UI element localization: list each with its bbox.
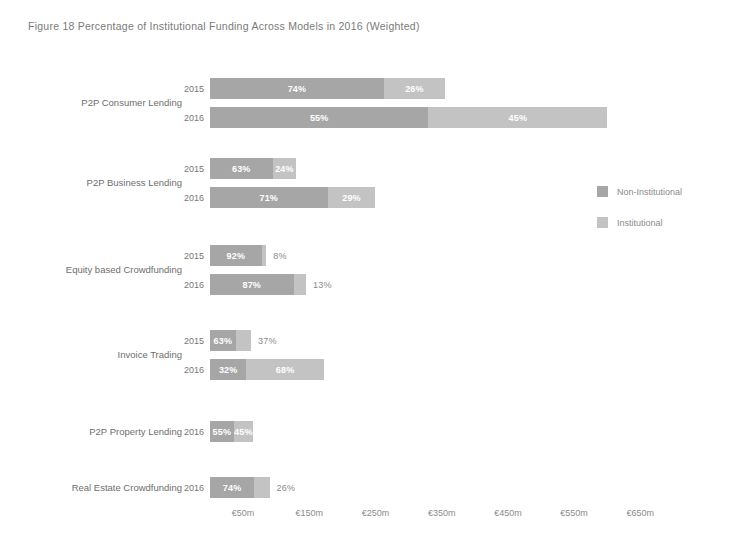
bar-segment-institutional[interactable]: 8% xyxy=(262,245,267,266)
bar-group: Invoice Trading201563%37%201632%68% xyxy=(0,330,733,380)
bar-value-label: 74% xyxy=(288,84,307,94)
bar-value-label: 45% xyxy=(234,427,253,437)
bar-segment-non-institutional[interactable]: 74% xyxy=(210,78,384,99)
bar-value-label: 26% xyxy=(405,84,424,94)
category-label: Equity based Crowdfunding xyxy=(0,264,182,275)
bar-value-label: 55% xyxy=(213,427,232,437)
bar-segment-institutional[interactable]: 29% xyxy=(328,187,376,208)
legend-item[interactable]: Non-Institutional xyxy=(597,186,727,197)
stacked-bar[interactable]: 74%26% xyxy=(210,477,270,498)
bar-segment-institutional[interactable]: 26% xyxy=(384,78,445,99)
bar-value-label: 68% xyxy=(276,365,295,375)
bar-segment-non-institutional[interactable]: 71% xyxy=(210,187,328,208)
bar-value-label: 74% xyxy=(223,483,242,493)
bar-segment-non-institutional[interactable]: 55% xyxy=(210,421,234,442)
year-label: 2015 xyxy=(176,251,204,261)
x-axis-tick-label: €50m xyxy=(232,508,255,518)
x-axis: €50m€150m€250m€350m€450m€550m€650m xyxy=(0,508,733,528)
x-axis-tick-label: €250m xyxy=(362,508,390,518)
legend-label: Non-Institutional xyxy=(617,187,682,197)
year-label: 2015 xyxy=(176,164,204,174)
stacked-bar[interactable]: 32%68% xyxy=(210,359,324,380)
bar-segment-non-institutional[interactable]: 63% xyxy=(210,158,273,179)
x-axis-tick-label: €450m xyxy=(494,508,522,518)
bar-value-label: 92% xyxy=(227,251,246,261)
bar-value-label: 87% xyxy=(242,280,261,290)
x-axis-tick-label: €650m xyxy=(627,508,655,518)
bar-value-label: 29% xyxy=(342,193,361,203)
bar-value-label: 26% xyxy=(277,483,296,493)
year-label: 2015 xyxy=(176,84,204,94)
bar-group: P2P Property Lending201655%45% xyxy=(0,421,733,442)
bar-group: P2P Consumer Lending201574%26%201655%45% xyxy=(0,78,733,128)
bar-value-label: 71% xyxy=(259,193,278,203)
chart-legend: Non-InstitutionalInstitutional xyxy=(597,186,727,248)
stacked-bar[interactable]: 87%13% xyxy=(210,274,306,295)
legend-swatch-icon xyxy=(597,217,608,228)
bar-segment-institutional[interactable]: 37% xyxy=(236,330,251,351)
bar-value-label: 32% xyxy=(219,365,238,375)
bar-segment-non-institutional[interactable]: 63% xyxy=(210,330,236,351)
bar-value-label: 45% xyxy=(509,113,528,123)
bar-value-label: 24% xyxy=(275,164,294,174)
year-label: 2016 xyxy=(176,113,204,123)
bar-segment-institutional[interactable]: 24% xyxy=(273,158,297,179)
bar-segment-non-institutional[interactable]: 55% xyxy=(210,107,428,128)
year-label: 2016 xyxy=(176,280,204,290)
category-label: P2P Consumer Lending xyxy=(0,97,182,108)
year-label: 2016 xyxy=(176,365,204,375)
stacked-bar[interactable]: 63%24% xyxy=(210,158,309,179)
bar-value-label: 37% xyxy=(258,336,277,346)
bar-segment-non-institutional[interactable]: 87% xyxy=(210,274,294,295)
stacked-bar[interactable]: 63%37% xyxy=(210,330,251,351)
chart-plot-area: P2P Consumer Lending201574%26%201655%45%… xyxy=(0,52,733,522)
stacked-bar[interactable]: 55%45% xyxy=(210,421,253,442)
year-label: 2016 xyxy=(176,427,204,437)
category-label: P2P Property Lending xyxy=(0,426,182,437)
bar-value-label: 13% xyxy=(313,280,332,290)
figure-title: Figure 18 Percentage of Institutional Fu… xyxy=(28,20,420,32)
category-label: Invoice Trading xyxy=(0,349,182,360)
bar-segment-institutional[interactable]: 26% xyxy=(254,477,269,498)
bar-group: Equity based Crowdfunding201592%8%201687… xyxy=(0,245,733,295)
bar-value-label: 8% xyxy=(273,251,286,261)
category-label: P2P Business Lending xyxy=(0,177,182,188)
bar-value-label: 55% xyxy=(310,113,329,123)
stacked-bar[interactable]: 92%8% xyxy=(210,245,266,266)
bar-segment-institutional[interactable]: 68% xyxy=(246,359,323,380)
bar-value-label: 63% xyxy=(214,336,233,346)
bar-segment-institutional[interactable]: 45% xyxy=(428,107,607,128)
bar-segment-non-institutional[interactable]: 92% xyxy=(210,245,262,266)
bar-segment-institutional[interactable]: 45% xyxy=(234,421,253,442)
year-label: 2016 xyxy=(176,193,204,203)
legend-label: Institutional xyxy=(617,218,663,228)
stacked-bar[interactable]: 71%29% xyxy=(210,187,376,208)
year-label: 2015 xyxy=(176,336,204,346)
category-label: Real Estate Crowdfunding xyxy=(0,482,182,493)
stacked-bar[interactable]: 74%26% xyxy=(210,78,445,99)
bar-value-label: 63% xyxy=(232,164,251,174)
x-axis-tick-label: €350m xyxy=(428,508,456,518)
legend-swatch-icon xyxy=(597,186,608,197)
bar-segment-non-institutional[interactable]: 74% xyxy=(210,477,254,498)
x-axis-tick-label: €550m xyxy=(560,508,588,518)
x-axis-tick-label: €150m xyxy=(296,508,324,518)
bar-segment-institutional[interactable]: 13% xyxy=(294,274,306,295)
year-label: 2016 xyxy=(176,483,204,493)
bar-segment-non-institutional[interactable]: 32% xyxy=(210,359,246,380)
bar-group: Real Estate Crowdfunding201674%26% xyxy=(0,477,733,498)
legend-item[interactable]: Institutional xyxy=(597,217,727,228)
stacked-bar[interactable]: 55%45% xyxy=(210,107,607,128)
